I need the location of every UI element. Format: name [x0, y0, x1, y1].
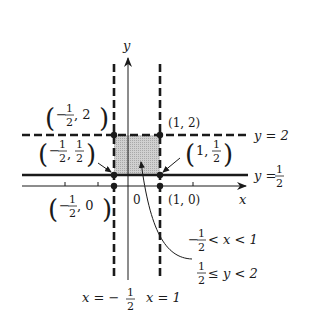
svg-text:1: 1 — [213, 138, 220, 151]
svg-text:1: 1 — [69, 193, 76, 206]
point-neg-half-2 — [111, 132, 117, 138]
svg-text:1: 1 — [127, 286, 134, 299]
svg-text:): ) — [102, 194, 112, 224]
point-neg-half-half — [111, 172, 117, 178]
svg-text:): ) — [223, 139, 233, 169]
label-point-neg-half-2: ( − 1 2 , 2 ) — [45, 102, 109, 133]
inequality-x: − 1 2 < x < 1 — [188, 227, 258, 254]
label-point-neg-half-half: ( − 1 2 , 1 2 ) — [38, 138, 96, 169]
origin-label: 0 — [133, 193, 141, 207]
svg-text:2: 2 — [127, 300, 134, 313]
svg-text:1: 1 — [276, 163, 283, 176]
svg-text:1: 1 — [198, 227, 205, 240]
svg-text:< x < 1: < x < 1 — [208, 232, 258, 247]
arrow-to-region — [141, 162, 192, 259]
svg-text:(: ( — [38, 139, 48, 169]
svg-text:(: ( — [185, 139, 195, 169]
svg-text:2: 2 — [59, 152, 66, 165]
svg-text:1: 1 — [66, 102, 73, 115]
svg-text:1: 1 — [198, 260, 205, 273]
x-axis-label: x — [239, 192, 247, 207]
point-neg-half-0 — [111, 183, 117, 189]
svg-text:1,: 1, — [196, 143, 208, 158]
label-line-x-one: x = 1 — [146, 290, 181, 305]
svg-text:2: 2 — [213, 152, 220, 165]
svg-text:, 0: , 0 — [77, 198, 94, 213]
svg-text:2: 2 — [76, 152, 83, 165]
svg-text:1: 1 — [59, 138, 66, 151]
svg-text:≤ y < 2: ≤ y < 2 — [208, 266, 258, 281]
y-axis-label: y — [122, 38, 131, 53]
svg-text:2: 2 — [69, 207, 76, 220]
coordinate-diagram: y x 0 ( − 1 2 , 2 ) (1, 2) ( − 1 2 , 1 2… — [0, 0, 309, 333]
svg-text:2: 2 — [198, 241, 205, 254]
inequality-y: 1 2 ≤ y < 2 — [197, 260, 258, 287]
svg-text:,: , — [67, 146, 71, 161]
label-line-y-half: y = 1 2 — [253, 163, 284, 190]
svg-text:2: 2 — [276, 177, 283, 190]
svg-text:): ) — [86, 139, 96, 169]
label-line-y-two: y = 2 — [253, 128, 289, 143]
svg-text:2: 2 — [198, 274, 205, 287]
svg-text:(: ( — [48, 194, 58, 224]
label-line-x-neg-half: x = − 1 2 — [82, 286, 135, 313]
arrow-to-neg-half-half — [98, 163, 111, 172]
point-1-0 — [157, 183, 163, 189]
point-1-2 — [157, 132, 163, 138]
svg-text:2: 2 — [66, 116, 73, 129]
svg-text:): ) — [99, 103, 109, 133]
arrow-to-1-half — [163, 158, 180, 172]
point-1-half — [157, 172, 163, 178]
svg-text:y =: y = — [253, 168, 276, 183]
svg-text:x = −: x = − — [82, 290, 119, 305]
shaded-region — [114, 135, 160, 175]
x-axis-ticks — [65, 182, 193, 186]
label-point-1-half: ( 1, 1 2 ) — [185, 138, 233, 169]
svg-text:, 2: , 2 — [74, 107, 91, 122]
label-point-1-0: (1, 0) — [168, 193, 200, 207]
label-point-1-2: (1, 2) — [168, 116, 200, 130]
label-point-neg-half-0: ( − 1 2 , 0 ) — [48, 193, 112, 224]
svg-text:(: ( — [45, 103, 55, 133]
svg-text:1: 1 — [76, 138, 83, 151]
